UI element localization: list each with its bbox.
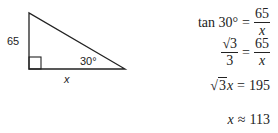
equation-3: √ 3 x = 195 xyxy=(210,77,270,94)
eq4-rhs: 113 xyxy=(250,112,270,128)
eq3-op: = xyxy=(237,78,245,94)
equation-1: tan 30° = 65 x xyxy=(198,7,270,38)
equation-4: x ≈ 113 xyxy=(228,112,270,128)
eq2-lhs-denominator: 3 xyxy=(226,53,233,68)
eq2-rhs-numerator: 65 xyxy=(254,37,270,53)
eq2-op: = xyxy=(242,45,250,61)
eq2-lhs-numerator: √3 xyxy=(221,37,238,53)
right-triangle xyxy=(0,0,140,95)
equation-2: √3 3 = 65 x xyxy=(221,37,270,68)
eq4-op: ≈ xyxy=(238,112,246,128)
eq1-lhs: tan 30° xyxy=(198,15,238,31)
radical-sign-icon: √ xyxy=(210,78,218,94)
eq2-lhs-fraction: √3 3 xyxy=(221,37,238,68)
angle-label: 30° xyxy=(80,55,97,67)
eq2-rhs-denominator: x xyxy=(259,53,265,68)
eq3-variable: x xyxy=(227,78,233,94)
right-angle-marker xyxy=(29,57,41,69)
eq3-rhs: 195 xyxy=(249,78,270,94)
side-label-vertical: 65 xyxy=(7,35,19,47)
side-label-horizontal: x xyxy=(64,73,70,85)
eq1-rhs-fraction: 65 x xyxy=(254,7,270,38)
eq3-radicand: 3 xyxy=(218,77,227,94)
eq3-sqrt: √ 3 xyxy=(210,77,227,94)
eq2-rhs-fraction: 65 x xyxy=(254,37,270,68)
eq4-lhs: x xyxy=(228,112,234,128)
eq1-rhs-numerator: 65 xyxy=(254,7,270,23)
eq1-op: = xyxy=(242,15,250,31)
